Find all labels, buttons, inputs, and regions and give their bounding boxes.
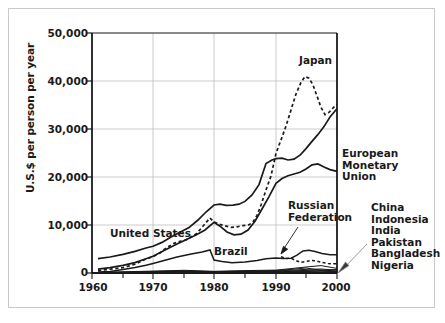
series-japan bbox=[98, 77, 337, 271]
series-label-emu-line1: European bbox=[342, 148, 398, 160]
x-tick-label-2000: 2000 bbox=[311, 281, 361, 293]
y-tick-label-0: 0 bbox=[34, 266, 88, 278]
y-tick-label-10000: 10,000 bbox=[34, 219, 88, 231]
series-developing-cluster bbox=[98, 266, 337, 273]
series-label-european-monetary-union: European Monetary Union bbox=[342, 148, 398, 183]
chart-figure: U.S.$ per person per year 50,000 40,000 … bbox=[0, 0, 445, 323]
developing-countries-callout-arrow bbox=[338, 244, 367, 273]
y-tick-label-20000: 20,000 bbox=[34, 171, 88, 183]
series-label-brazil: Brazil bbox=[214, 246, 248, 258]
y-tick-label-50000: 50,000 bbox=[34, 27, 88, 39]
y-tick-label-40000: 40,000 bbox=[34, 75, 88, 87]
series-label-united-states: United States bbox=[110, 228, 191, 240]
x-tick-label-1980: 1980 bbox=[189, 281, 239, 293]
series-label-emu-line3: Union bbox=[342, 171, 398, 183]
series-label-russian-line1: Russian bbox=[288, 200, 352, 212]
series-label-india: India bbox=[371, 225, 440, 237]
series-label-russian-federation: Russian Federation bbox=[288, 200, 352, 223]
series-label-russian-line2: Federation bbox=[288, 212, 352, 224]
series-label-japan: Japan bbox=[299, 55, 332, 67]
y-tick-labels: 50,000 40,000 30,000 20,000 10,000 0 bbox=[30, 0, 88, 323]
series-label-nigeria: Nigeria bbox=[371, 260, 440, 272]
series-label-bangladesh: Bangladesh bbox=[371, 248, 440, 260]
y-tick-label-30000: 30,000 bbox=[34, 123, 88, 135]
series-label-developing-countries: China Indonesia India Pakistan Banglades… bbox=[371, 202, 440, 271]
russian-federation-callout-arrow bbox=[281, 227, 298, 254]
x-tick-label-1970: 1970 bbox=[128, 281, 178, 293]
x-tick-label-1990: 1990 bbox=[251, 281, 301, 293]
series-label-china: China bbox=[371, 202, 440, 214]
x-tick-label-1960: 1960 bbox=[68, 281, 118, 293]
